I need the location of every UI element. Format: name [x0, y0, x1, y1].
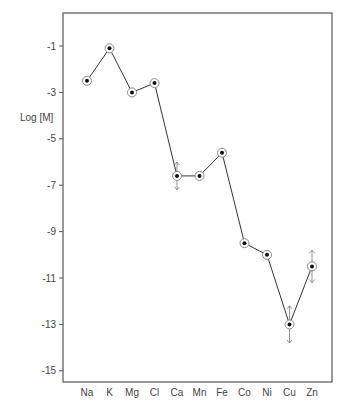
x-tick-label: Mg	[125, 387, 139, 398]
x-tick-label: Na	[81, 387, 94, 398]
data-point	[128, 88, 137, 97]
y-tick-label: -15	[42, 365, 57, 376]
chart: -1-3-5-7-9-11-13-15 NaKMgClCaMnFeCoNiCuZ…	[0, 0, 348, 411]
data-point	[285, 320, 294, 329]
y-tick-label: -7	[47, 180, 56, 191]
y-tick-label: -13	[42, 319, 57, 330]
x-tick-label: Cl	[150, 387, 159, 398]
y-tick-label: -5	[47, 133, 56, 144]
x-tick-label: Mn	[193, 387, 207, 398]
data-point	[105, 44, 114, 53]
x-tick-label: Zn	[306, 387, 318, 398]
data-point	[83, 76, 92, 85]
y-tick-label: -11	[42, 273, 56, 284]
y-tick-label: -3	[47, 87, 56, 98]
x-tick-label: Co	[238, 387, 251, 398]
x-tick-label: Ca	[171, 387, 184, 398]
y-axis: -1-3-5-7-9-11-13-15	[42, 41, 63, 377]
data-point	[240, 239, 249, 248]
x-axis: NaKMgClCaMnFeCoNiCuZn	[81, 387, 318, 398]
y-tick-label: -9	[47, 226, 56, 237]
data-markers	[83, 44, 317, 329]
x-tick-label: Ni	[262, 387, 271, 398]
x-tick-label: Fe	[216, 387, 228, 398]
data-point	[263, 250, 272, 259]
data-point	[218, 148, 227, 157]
data-point	[150, 79, 159, 88]
data-point	[195, 171, 204, 180]
y-axis-title: Log [M]	[20, 112, 54, 123]
data-point	[173, 171, 182, 180]
x-tick-label: Cu	[283, 387, 296, 398]
error-arrows	[175, 162, 315, 343]
data-point	[308, 262, 317, 271]
x-tick-label: K	[106, 387, 113, 398]
series-line	[87, 48, 312, 324]
y-tick-label: -1	[47, 41, 56, 52]
